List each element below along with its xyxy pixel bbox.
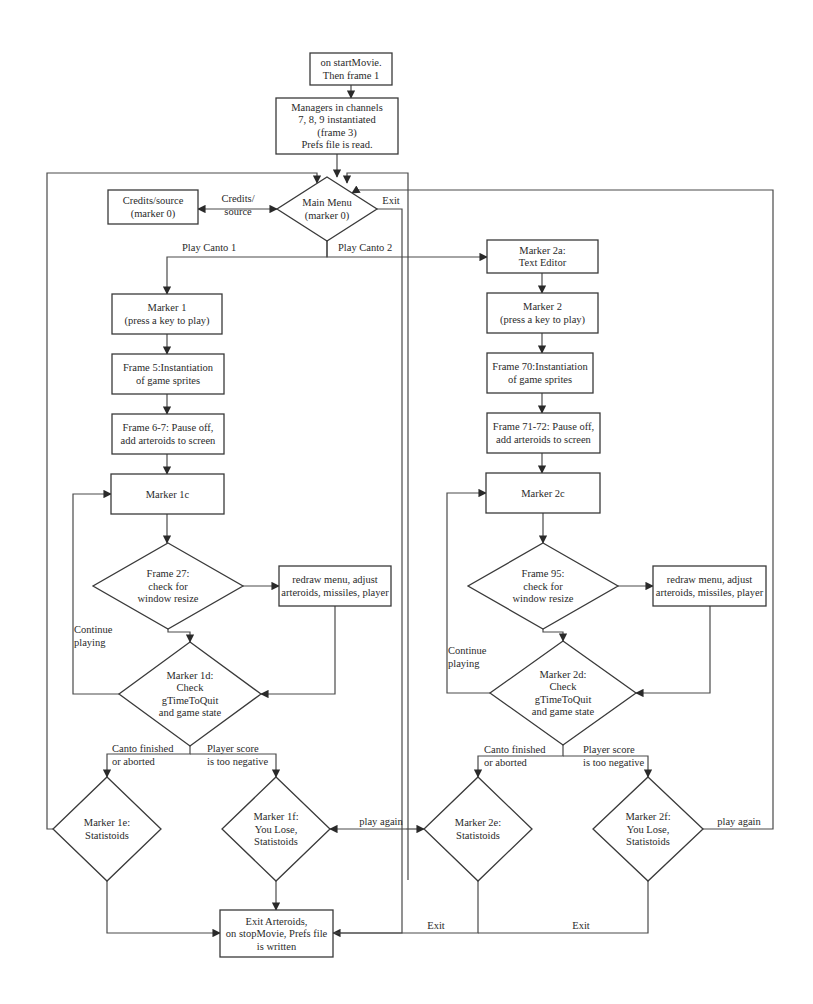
text-line: Check (550, 681, 578, 692)
node-redraw1: redraw menu, adjustarteroids, missiles, … (279, 566, 391, 606)
node-credits: Credits/source(marker 0) (108, 190, 198, 224)
edge-label-lbl-credits: Credits/source (221, 193, 254, 217)
node-frame5: Frame 5:Instantiationof game sprites (112, 354, 224, 394)
text-line: Marker 1e: (84, 817, 130, 828)
text-line: Exit Arteroids, (246, 916, 308, 927)
text-line: Statistoids (254, 836, 298, 847)
node-exit: Exit Arteroids,on stopMovie, Prefs filei… (220, 910, 333, 957)
edge-label-lbl-playagain2: play again (717, 816, 761, 827)
text-line: (marker 0) (131, 208, 176, 220)
node-main-menu: Main Menu(marker 0) (277, 177, 377, 241)
text-line: window resize (138, 593, 199, 604)
label-line: Player score (207, 743, 259, 754)
text-line: Statistoids (85, 830, 129, 841)
label-line: is too negative (583, 757, 645, 768)
text-line: Marker 1d: (167, 670, 214, 681)
text-line: Frame 27: (147, 568, 190, 579)
edge-label-lbl-score1: Player scoreis too negative (207, 743, 269, 767)
label-line: play again (717, 816, 761, 827)
text-line: You Lose, (627, 824, 670, 835)
text-line: Statistoids (626, 836, 670, 847)
edge-e-m1e-exit (107, 881, 220, 933)
nodes-layer: on startMovie.Then frame 1Managers in ch… (53, 53, 766, 957)
text-line: Marker 1 (148, 302, 187, 313)
text-line: Marker 2f: (625, 811, 670, 822)
label-line: Continue (74, 624, 113, 635)
text-line: Main Menu (302, 197, 352, 208)
label-line: playing (74, 637, 106, 648)
node-marker2d: Marker 2d:CheckgTimeToQuitand game state (490, 641, 636, 745)
text-line: Text Editor (519, 257, 567, 268)
label-line: or aborted (484, 757, 528, 768)
text-line: Marker 2d: (540, 669, 587, 680)
text-line: (frame 3) (317, 127, 357, 139)
node-frame7172: Frame 71-72: Pause off,add arteroids to … (487, 413, 600, 453)
text-line: Marker 1c (146, 489, 190, 500)
text-line: (marker 0) (305, 210, 350, 222)
text-line: (press a key to play) (124, 315, 210, 327)
node-frame70: Frame 70:Instantiationof game sprites (487, 353, 593, 393)
text-line: Marker 2 (523, 301, 562, 312)
label-line: Continue (448, 645, 487, 656)
node-marker1c: Marker 1c (111, 474, 224, 514)
text-line: gTimeToQuit (535, 694, 592, 705)
node-marker1: Marker 1(press a key to play) (112, 294, 222, 334)
label-line: playing (448, 658, 480, 669)
text-line: of game sprites (136, 375, 200, 386)
label-line: Credits/ (221, 193, 254, 204)
node-managers: Managers in channels7, 8, 9 instantiated… (276, 98, 398, 154)
text-line: You Lose, (255, 824, 298, 835)
label-line: Play Canto 1 (182, 242, 236, 253)
text-line: check for (148, 581, 188, 592)
node-marker1f: Marker 1f:You Lose,Statistoids (222, 777, 330, 881)
text-line: is written (257, 941, 297, 952)
text-line: redraw menu, adjust (292, 574, 378, 585)
label-line: Exit (572, 920, 590, 931)
edge-e-m2e-exit (333, 881, 478, 933)
node-marker2: Marker 2(press a key to play) (487, 293, 598, 333)
node-marker1e: Marker 1e:Statistoids (53, 777, 161, 881)
edge-label-lbl-score2: Player scoreis too negative (583, 744, 645, 768)
text-line: Marker 2a: (519, 245, 565, 256)
edge-label-lbl-continue2: Continueplaying (448, 645, 487, 669)
edge-label-lbl-continue1: Continueplaying (74, 624, 113, 648)
node-marker2c: Marker 2c (486, 473, 600, 513)
text-line: Check (177, 682, 205, 693)
edge-e-redraw1-m1d (261, 606, 335, 694)
text-line: add arteroids to screen (121, 435, 217, 446)
text-line: 7, 8, 9 instantiated (298, 114, 376, 125)
node-frame27: Frame 27:check forwindow resize (93, 543, 243, 629)
edge-e-loop1-top (347, 173, 408, 880)
text-line: Prefs file is read. (301, 139, 372, 150)
text-line: arteroids, missiles, player (656, 587, 764, 598)
text-line: add arteroids to screen (496, 434, 592, 445)
edge-label-lbl-canto-fin1: Canto finishedor aborted (112, 743, 174, 767)
text-line: Frame 6-7: Pause off, (123, 422, 214, 433)
text-line: Frame 70:Instantiation (492, 361, 588, 372)
edge-e-f95-m2d (543, 629, 563, 641)
text-line: Frame 95: (522, 568, 565, 579)
text-line: Then frame 1 (323, 70, 380, 81)
edge-label-lbl-play2: Play Canto 2 (338, 242, 392, 253)
label-line: is too negative (207, 756, 269, 767)
edge-label-lbl-play1: Play Canto 1 (182, 242, 236, 253)
text-line: and game state (159, 707, 222, 718)
edge-e-m2f-exit (478, 881, 648, 933)
text-line: and game state (532, 706, 595, 717)
label-line: Exit (382, 195, 400, 206)
edge-label-lbl-exit2e: Exit (427, 920, 445, 931)
edge-label-lbl-playagain1: play again (359, 816, 403, 827)
node-marker1d: Marker 1d:CheckgTimeToQuitand game state (119, 642, 261, 746)
text-line: of game sprites (508, 374, 572, 385)
text-line: redraw menu, adjust (667, 574, 753, 585)
label-line: source (224, 206, 252, 217)
edge-e-redraw2-m2d (636, 606, 710, 693)
node-redraw2: redraw menu, adjustarteroids, missiles, … (653, 566, 766, 606)
node-frame67: Frame 6-7: Pause off,add arteroids to sc… (112, 414, 224, 454)
edge-label-lbl-exit-menu: Exit (382, 195, 400, 206)
label-line: Player score (583, 744, 635, 755)
text-line: window resize (513, 593, 574, 604)
text-line: arteroids, missiles, player (281, 587, 389, 598)
label-line: or aborted (112, 756, 156, 767)
node-frame95: Frame 95:check forwindow resize (468, 543, 618, 629)
